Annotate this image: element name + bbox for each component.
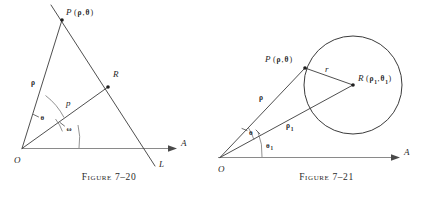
label-point-R-letter: R — [357, 73, 364, 83]
label-segment-rho1-letter: ρ — [286, 121, 290, 130]
angle-omega-tick — [60, 123, 65, 127]
label-axis-A: A — [403, 147, 410, 157]
point-P-marker — [60, 18, 64, 22]
angle-theta1-tick — [256, 130, 260, 134]
label-origin-O: O — [14, 155, 21, 165]
label-angle-omega: ω — [67, 125, 72, 133]
label-point-P-letter: P — [65, 7, 72, 17]
polar-axis-group — [218, 154, 400, 160]
point-R-marker — [106, 85, 110, 89]
label-angle-theta1-letter: θ — [266, 142, 270, 150]
label-point-P-paren-close: ) — [290, 55, 293, 64]
label-point-R: R — [112, 69, 119, 79]
segment-O-R — [22, 87, 108, 149]
label-origin-O: O — [218, 164, 225, 172]
label-point-R-theta1: θ — [381, 74, 385, 83]
label-point-R: R ( ρ 1 , θ 1 ) — [357, 73, 392, 85]
label-angle-theta: θ — [41, 114, 45, 122]
label-point-R-rho1: ρ — [370, 74, 374, 83]
label-segment-rho: ρ — [31, 78, 35, 87]
label-angle-theta1-subscript: 1 — [271, 145, 274, 151]
angle-theta-arc-outer — [46, 96, 65, 118]
point-P-marker — [303, 66, 307, 70]
polar-axis-arrowhead — [168, 145, 177, 151]
label-angle-theta: θ — [249, 129, 253, 137]
label-point-P: P ( ρ , θ ) — [264, 54, 293, 64]
label-point-P: P ( ρ , θ ) — [65, 7, 94, 17]
label-point-R-comma: , — [378, 74, 380, 83]
label-point-R-paren-close: ) — [389, 74, 392, 83]
segment-P-R — [305, 68, 353, 85]
figure-7-21: P ( ρ , θ ) R ( ρ 1 , θ 1 ) ρ — [218, 0, 435, 198]
figure-page: P ( ρ , θ ) R ρ p θ ω O A L Fig — [0, 0, 435, 198]
label-segment-rho1: ρ 1 — [286, 121, 294, 132]
label-point-P-comma: , — [83, 8, 85, 17]
segment-O-P — [22, 20, 62, 149]
label-segment-rho1-subscript: 1 — [291, 126, 294, 132]
label-point-P-theta: θ — [86, 8, 90, 17]
figure-7-20-caption: Figure 7–20 — [0, 172, 218, 182]
figure-7-20-diagram: P ( ρ , θ ) R ρ p θ ω O A L — [0, 0, 218, 172]
label-segment-r: r — [325, 64, 329, 74]
figure-7-21-diagram: P ( ρ , θ ) R ( ρ 1 , θ 1 ) ρ — [218, 0, 435, 172]
label-point-P-rho: ρ — [78, 8, 82, 17]
angle-omega-arc — [78, 125, 80, 148]
label-point-P-letter: P — [264, 54, 271, 64]
label-point-P-theta: θ — [285, 55, 289, 64]
line-L — [51, 5, 155, 166]
label-segment-p: p — [65, 98, 71, 108]
label-segment-rho: ρ — [259, 93, 263, 102]
angle-theta-tick — [34, 115, 39, 117]
point-R-marker — [351, 83, 355, 87]
label-point-P-comma: , — [282, 55, 284, 64]
polar-axis-group — [22, 145, 177, 151]
label-point-P-rho: ρ — [277, 55, 281, 64]
label-point-P-paren-close: ) — [91, 8, 94, 17]
label-angle-theta1: θ 1 — [266, 142, 274, 151]
figure-7-20: P ( ρ , θ ) R ρ p θ ω O A L Fig — [0, 0, 218, 198]
figure-7-21-caption: Figure 7–21 — [218, 172, 435, 182]
label-line-L: L — [158, 159, 164, 169]
polar-axis-arrowhead — [391, 154, 400, 160]
segment-O-P — [220, 68, 305, 158]
label-axis-A: A — [180, 138, 187, 148]
